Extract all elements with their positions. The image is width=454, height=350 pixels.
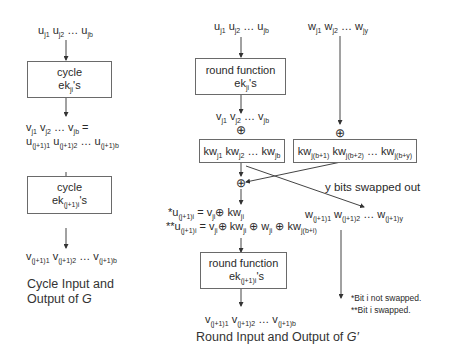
left-middle-label-2: u(j+1)1 u(j+1)2 … u(j+1)b xyxy=(26,135,119,148)
equation-swapped: **u(j+1)i = vji⊕ kwji ⊕ wji ⊕ kwj(b+i) xyxy=(166,220,317,233)
xor-icon-3: ⊕ xyxy=(236,177,246,189)
kw-box-right: kwj(b+1) kwj(b+2) … kwj(b+y) xyxy=(293,139,417,163)
left-box1-line1: cycle xyxy=(28,66,111,79)
kw-box-left: kwj1 kwj2 … kwjb xyxy=(199,139,285,163)
footnote-not-swapped: *Bit i not swapped. xyxy=(351,293,421,304)
xor-icon-1: ⊕ xyxy=(236,124,246,136)
w-output-label: w(j+1)1 w(j+1)2 … w(j+1)y xyxy=(305,208,403,221)
footnote-swapped: **Bit i swapped. xyxy=(351,305,411,316)
left-box1-line2: ekji's xyxy=(28,79,111,92)
left-box2-line2: ek(j+1)i's xyxy=(28,194,111,207)
xor-icon-2: ⊕ xyxy=(335,127,345,139)
swap-label: y bits swapped out xyxy=(325,181,420,194)
left-caption-line1: Cycle Input and xyxy=(27,277,114,292)
left-cycle-box-1: cycle ekji's xyxy=(27,61,112,98)
right-box2-line1: round function xyxy=(201,257,286,270)
round-function-box-2: round function ek(j+1)i's xyxy=(200,252,287,289)
left-middle-label: vj1 vj2 … vjb = xyxy=(26,121,89,134)
right-box1-line1: round function xyxy=(196,64,285,77)
left-cycle-box-2: cycle ek(j+1)i's xyxy=(27,176,112,214)
left-input-label: uj1 uj2 … ujb xyxy=(38,24,93,37)
right-caption: Round Input and Output of G′ xyxy=(196,330,359,345)
v-label: vj1 vj2 … vjb xyxy=(216,110,269,123)
right-box2-line2: ek(j+1)i's xyxy=(201,270,286,283)
w-input-label: wj1 wj2 … wjy xyxy=(308,20,368,33)
left-caption-line2: Output of G xyxy=(27,292,114,307)
right-output-label: v(j+1)1 v(j+1)2 … v(j+1)b xyxy=(205,313,296,326)
round-function-box-1: round function ekji's xyxy=(195,58,286,95)
right-input-label: uj1 uj2 … ujb xyxy=(214,20,269,33)
equation-not-swapped: *u(j+1)i = vji⊕ kwji xyxy=(168,206,244,219)
left-output-label: v(j+1)1 v(j+1)2 … v(j+1)b xyxy=(26,250,117,263)
left-caption: Cycle Input and Output of G xyxy=(27,277,114,307)
right-box1-line2: ekji's xyxy=(196,77,285,90)
left-box2-line1: cycle xyxy=(28,181,111,194)
